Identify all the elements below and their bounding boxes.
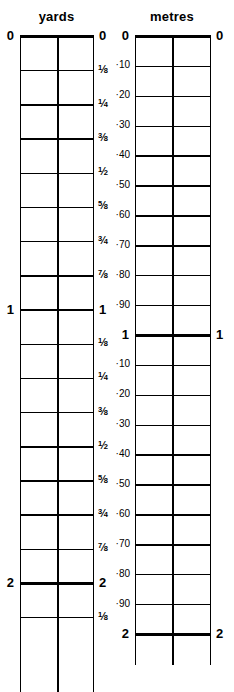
metres-tick-label-left: ·60 xyxy=(116,509,130,519)
yards-tick-label-right: 1⁄4 xyxy=(98,372,108,382)
metres-tick-label-left: 2 xyxy=(122,627,129,640)
yards-tick-label-right: 3⁄8 xyxy=(98,407,108,417)
yards-tick-label-right: 7⁄8 xyxy=(98,543,108,553)
yards-tick-label-left: 1 xyxy=(7,303,14,316)
yards-tick-label-right: 0 xyxy=(99,29,106,42)
metres-tick-label-right: 1 xyxy=(216,328,223,341)
yards-tick-label-right: 3⁄8 xyxy=(98,133,108,143)
yards-tick-label-left: 2 xyxy=(7,576,14,589)
yards-tick-label-right: 3⁄4 xyxy=(98,236,108,246)
yards-tick-label-right: 1⁄8 xyxy=(98,65,108,75)
yards-tick-label-right: 1⁄8 xyxy=(98,338,108,348)
metres-tick-label-left: ·80 xyxy=(116,569,130,579)
metres-tick-label-left: ·90 xyxy=(116,599,130,609)
metres-tick-label-left: 0 xyxy=(122,29,129,42)
metres-tick-label-left: ·10 xyxy=(116,359,130,369)
metres-tick-label-left: ·40 xyxy=(116,150,130,160)
metres-tick-label-left: ·40 xyxy=(116,449,130,459)
yards-tick-label-left: 0 xyxy=(7,29,14,42)
yards-tick-label-right: 1⁄8 xyxy=(98,612,108,622)
yards-tick-label-right: 1⁄2 xyxy=(98,167,108,177)
metres-tick-label-left: ·30 xyxy=(116,120,130,130)
metres-tick-label-left: ·70 xyxy=(116,539,130,549)
metres-tick-label-left: ·80 xyxy=(116,270,130,280)
metres-tick-label-left: ·20 xyxy=(116,389,130,399)
metres-tick-label-left: ·70 xyxy=(116,240,130,250)
conversion-ruler-figure: yards metres 001⁄81⁄43⁄81⁄25⁄83⁄47⁄8111⁄… xyxy=(0,0,234,692)
yards-tick-label-right: 5⁄8 xyxy=(98,475,108,485)
yards-tick-label-right: 1 xyxy=(99,303,106,316)
metres-tick-label-left: 1 xyxy=(122,328,129,341)
metres-tick-label-right: 2 xyxy=(216,627,223,640)
metres-tick-label-left: ·30 xyxy=(116,419,130,429)
metres-tick-label-left: ·50 xyxy=(116,479,130,489)
yards-tick-label-right: 1⁄4 xyxy=(98,99,108,109)
metres-tick-label-right: 0 xyxy=(216,29,223,42)
metres-tick-label-left: ·10 xyxy=(116,60,130,70)
yards-tick-label-right: 1⁄2 xyxy=(98,441,108,451)
yards-tick-label-right: 7⁄8 xyxy=(98,270,108,280)
metres-tick-label-left: ·60 xyxy=(116,210,130,220)
yards-tick-label-right: 5⁄8 xyxy=(98,201,108,211)
metres-tick-label-left: ·90 xyxy=(116,300,130,310)
ruler-graphics xyxy=(0,0,234,692)
yards-tick-label-right: 2 xyxy=(99,576,106,589)
yards-tick-label-right: 3⁄4 xyxy=(98,509,108,519)
metres-tick-label-left: ·20 xyxy=(116,90,130,100)
metres-tick-label-left: ·50 xyxy=(116,180,130,190)
